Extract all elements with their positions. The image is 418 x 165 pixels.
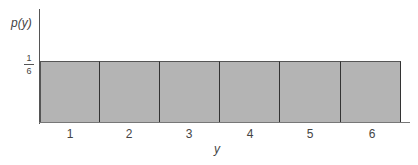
bar-6 [341,61,401,122]
x-tick-3: 3 [179,127,199,141]
x-tick-1: 1 [60,127,80,141]
bars-group [40,61,401,123]
y-tick-one-sixth: 1 6 [24,53,34,76]
fraction-bar [24,64,34,65]
y-tick-denominator: 6 [26,66,31,76]
bar-5 [280,61,341,122]
bar-4 [220,61,280,122]
x-axis-line [39,122,410,123]
bar-3 [160,61,220,122]
x-tick-4: 4 [240,127,260,141]
bar-2 [100,61,160,122]
x-tick-2: 2 [119,127,139,141]
x-axis-label: y [214,142,220,156]
y-axis-label: p(y) [11,16,32,30]
x-tick-6: 6 [362,127,382,141]
bar-1 [40,61,100,122]
uniform-distribution-chart: p(y) 1 6 1 2 3 4 5 6 y [0,0,418,165]
y-tick-numerator: 1 [26,53,31,63]
x-tick-5: 5 [300,127,320,141]
